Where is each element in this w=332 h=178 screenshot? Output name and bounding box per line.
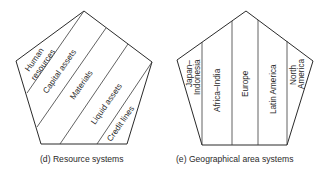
geographical-systems-pentagon: Japan– Indonesia Africa–India Europe Lat… <box>176 11 313 164</box>
caption-resource-systems: (d) Resource systems <box>40 154 124 164</box>
segment-label-latin-america: Latin America <box>269 64 278 114</box>
segment-label-europe: Europe <box>241 70 250 97</box>
segment-label-indonesia: Indonesia <box>193 59 202 95</box>
segment-label-materials: Materials <box>68 69 94 101</box>
segment-label-credit-lines: Credit lines <box>105 104 136 143</box>
segment-label-america: America <box>297 59 306 89</box>
resource-systems-pentagon: Human resources Capital assets Materials… <box>16 11 152 164</box>
segment-label-africa-india: Africa–India <box>213 68 222 112</box>
diagram-canvas: Human resources Capital assets Materials… <box>0 0 332 178</box>
caption-geographical-area-systems: (e) Geographical area systems <box>176 154 294 164</box>
